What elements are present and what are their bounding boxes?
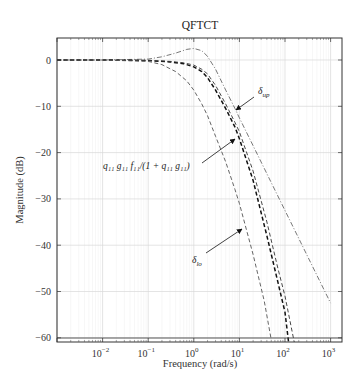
- y-tick-label: −20: [35, 147, 51, 158]
- y-tick-label: −50: [35, 286, 51, 297]
- x-axis-title: Frequency (rad/s): [163, 358, 238, 370]
- x-tick-exponent: −2: [102, 346, 110, 354]
- y-tick-label: −10: [35, 101, 51, 112]
- x-tick-exponent: 2: [286, 346, 290, 354]
- x-tick-exponent: 1: [241, 346, 245, 354]
- x-tick-label: 103: [322, 346, 336, 359]
- x-tick-exponent: −1: [147, 346, 155, 354]
- y-axis-title: Magnitude (dB): [14, 156, 26, 224]
- y-tick-label: −60: [35, 332, 51, 343]
- tick-layer: [57, 38, 342, 342]
- major-grid: [57, 38, 342, 342]
- minor-grid: [71, 38, 329, 342]
- annotation-label-delta-up: δup: [258, 86, 270, 99]
- y-tick-labels: 0−10−20−30−40−50−60: [35, 55, 51, 344]
- bode-magnitude-chart: QFTCT 0−10−20−30−40−50−60 10−210−1100101…: [0, 0, 362, 389]
- y-tick-label: −40: [35, 240, 51, 251]
- series-nominal: [57, 60, 289, 342]
- annotation-arrow-delta-lo: [206, 229, 242, 253]
- y-tick-label: −30: [35, 193, 51, 204]
- y-tick-label: 0: [46, 55, 51, 66]
- x-tick-label: 102: [276, 346, 290, 359]
- annotation-label-nominal: q₁₁ g₁₁ f₁₁/(1 + q₁₁ g₁₁): [103, 161, 190, 172]
- annotation-layer: δupq₁₁ g₁₁ f₁₁/(1 + q₁₁ g₁₁)δlo: [103, 86, 270, 268]
- x-tick-exponent: 3: [332, 346, 336, 354]
- annotation-subscript: up: [262, 91, 270, 99]
- x-tick-exponent: 0: [195, 346, 199, 354]
- x-tick-label: 10−1: [137, 346, 155, 359]
- plot-frame: [57, 38, 342, 342]
- x-tick-label: 10−2: [92, 346, 110, 359]
- annotation-arrow-delta-up: [236, 97, 254, 110]
- chart-title: QFTCT: [182, 19, 218, 31]
- annotation-subscript: lo: [196, 260, 202, 268]
